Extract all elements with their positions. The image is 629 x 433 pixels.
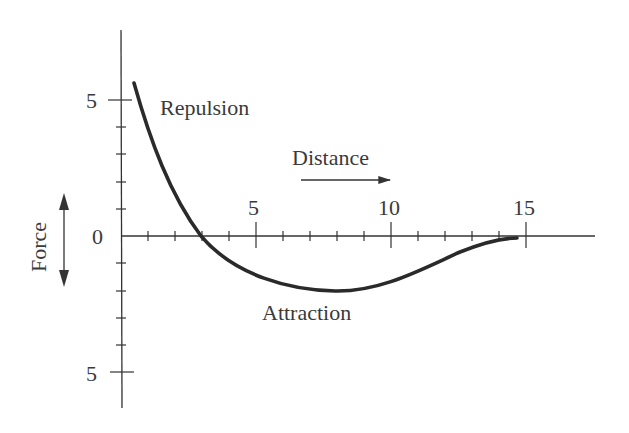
force-label: Force: [26, 222, 51, 272]
x-ticks: [148, 222, 526, 248]
y-tick-label-0: 0: [92, 224, 103, 249]
y-tick-label-5-top: 5: [86, 88, 97, 113]
y-axis: [121, 30, 122, 408]
attraction-label: Attraction: [262, 300, 351, 325]
distance-label: Distance: [292, 145, 369, 170]
x-tick-label-15: 15: [513, 195, 535, 220]
repulsion-label: Repulsion: [160, 95, 249, 120]
x-tick-label-10: 10: [378, 195, 400, 220]
force-double-arrow-icon: [59, 193, 69, 287]
x-tick-label-5: 5: [248, 195, 259, 220]
force-distance-chart: 5 0 5 5 10 15 Repulsion Attraction Dista…: [0, 0, 629, 433]
y-tick-label-5-bottom: 5: [86, 361, 97, 386]
